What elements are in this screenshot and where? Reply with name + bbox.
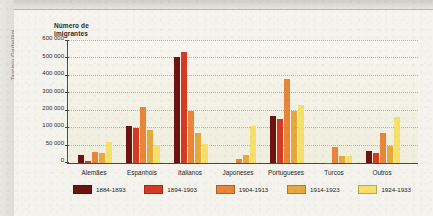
legend-swatch (73, 185, 92, 195)
legend-item[interactable]: 1904-1913 (216, 185, 269, 195)
y-tick-label: 0 (61, 157, 64, 163)
bar (284, 79, 290, 163)
bar (174, 57, 180, 163)
x-category-label: Alemães (82, 169, 107, 176)
bar-group (318, 41, 352, 163)
legend-item[interactable]: 1914-1923 (287, 185, 340, 195)
bar (188, 111, 194, 163)
y-tick-label: 500 000 (42, 53, 64, 59)
x-category-label: Japoneses (223, 169, 254, 176)
bar (195, 133, 201, 163)
legend-label: 1924-1933 (381, 186, 411, 193)
legend-swatch (216, 185, 235, 195)
y-tick-label: 600 000 (42, 35, 64, 41)
bar (250, 126, 256, 163)
bar (298, 105, 304, 163)
bar (394, 117, 400, 163)
bar (373, 153, 379, 163)
legend-label: 1914-1923 (310, 186, 340, 193)
y-tick-mark (65, 92, 69, 93)
legend-item[interactable]: 1884-1893 (73, 185, 126, 195)
y-tick-label: 300 000 (42, 88, 64, 94)
legend-item[interactable]: 1924-1933 (358, 185, 411, 195)
bar-group (78, 41, 112, 163)
bar (243, 155, 249, 163)
bar (133, 128, 139, 163)
legend-swatch (358, 185, 377, 195)
bar (78, 155, 84, 163)
bar (387, 146, 393, 163)
bar (140, 107, 146, 163)
bar (106, 142, 112, 163)
bar-group (366, 41, 400, 163)
bar (154, 145, 160, 163)
bar (291, 111, 297, 163)
bar (339, 156, 345, 163)
bar (332, 147, 338, 163)
plot-area: 050 000100 000200 000300 000400 000500 0… (67, 41, 418, 164)
legend-label: 1904-1913 (239, 186, 269, 193)
bar (85, 161, 91, 163)
bar-group (222, 41, 256, 163)
y-tick-mark (65, 162, 69, 163)
bar (202, 144, 208, 163)
bar (92, 152, 98, 164)
bar (380, 133, 386, 163)
bar-group (126, 41, 160, 163)
y-tick-label: 400 000 (42, 70, 64, 76)
y-tick-mark (65, 127, 69, 128)
x-category-label: Portugueses (268, 169, 304, 176)
legend-label: 1894-1903 (167, 186, 197, 193)
chart-canvas: Número deimigrantes 050 000100 000200 00… (14, 10, 433, 216)
x-category-label: Outros (372, 169, 391, 176)
bar (147, 130, 153, 163)
bar (181, 52, 187, 163)
y-tick-label: 50 000 (46, 140, 64, 146)
y-tick-label: 200 000 (42, 105, 64, 111)
credit-rail: Tarcisio Garbellini (0, 0, 15, 216)
y-axis-title-line: Número de (54, 22, 89, 30)
y-tick-mark (65, 75, 69, 76)
bar-group (270, 41, 304, 163)
bar (270, 116, 276, 163)
bar (346, 156, 352, 163)
figure: Tarcisio Garbellini Número deimigrantes … (0, 0, 433, 216)
y-tick-label: 100 000 (42, 122, 64, 128)
legend-swatch (287, 185, 306, 195)
chart-legend: 1884-18931894-19031904-19131914-19231924… (67, 183, 417, 196)
bar (277, 119, 283, 163)
y-tick-mark (65, 145, 69, 146)
bar (99, 153, 105, 163)
bar (126, 126, 132, 163)
bar (366, 151, 372, 163)
legend-label: 1884-1893 (96, 186, 126, 193)
page-top-strip (14, 0, 433, 9)
legend-swatch (144, 185, 163, 195)
x-category-label: Espanhóis (127, 169, 157, 176)
y-tick-mark (65, 40, 69, 41)
y-tick-mark (65, 57, 69, 58)
bar (236, 159, 242, 163)
bar-group (174, 41, 208, 163)
y-tick-mark (65, 110, 69, 111)
x-category-label: Turcos (324, 169, 343, 176)
x-category-label: Italianos (178, 169, 202, 176)
legend-item[interactable]: 1894-1903 (144, 185, 197, 195)
